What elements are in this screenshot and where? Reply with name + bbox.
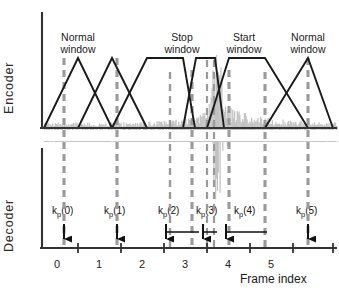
delay-bracket-4 bbox=[226, 225, 267, 232]
figure-container: Encoder Decoder Normal window Stop windo… bbox=[0, 0, 339, 291]
delay-brackets bbox=[166, 225, 267, 232]
kp-dashed-markers bbox=[64, 58, 308, 247]
decoder-axes bbox=[40, 148, 337, 249]
mdct-window-outlines bbox=[44, 58, 333, 128]
window-stop bbox=[112, 58, 195, 128]
window-normal-1 bbox=[44, 58, 112, 128]
figure-plot-svg bbox=[0, 0, 339, 291]
window-normal-2 bbox=[78, 58, 147, 128]
